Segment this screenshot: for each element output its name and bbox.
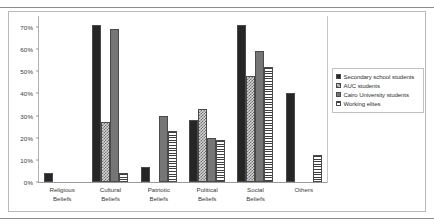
bar[interactable]: [168, 131, 177, 182]
bar-group-bars: [237, 16, 275, 182]
y-tick-mark: [36, 137, 39, 138]
bar-group: [141, 16, 179, 182]
legend-swatch-icon: [336, 74, 341, 79]
x-axis-label: Political Beliefs: [183, 186, 231, 203]
bar-group: [189, 16, 227, 182]
x-axis-line: [38, 182, 328, 183]
legend-swatch-icon: [336, 92, 341, 97]
bar[interactable]: [44, 173, 53, 182]
bar-group: [44, 16, 82, 182]
legend: Secondary school studentsAUC studentsCai…: [332, 68, 424, 113]
legend-item[interactable]: Secondary school students: [336, 72, 420, 81]
legend-rows: Secondary school studentsAUC studentsCai…: [336, 72, 420, 108]
y-axis-line: [38, 16, 39, 183]
bar-group: [237, 16, 275, 182]
y-tick-mark: [36, 159, 39, 160]
bar[interactable]: [189, 120, 198, 182]
bar[interactable]: [119, 173, 128, 182]
y-tick-mark: [36, 71, 39, 72]
figure: 0%10%20%30%40%50%60%70% Religious Belief…: [0, 0, 434, 224]
bar-group-bars: [286, 16, 324, 182]
plot-right-edge: [327, 16, 328, 183]
bar-group-bars: [44, 16, 82, 182]
bar-group: [92, 16, 130, 182]
bar[interactable]: [286, 93, 295, 182]
legend-item[interactable]: AUC students: [336, 81, 420, 90]
x-axis-label: Patriotic Beliefs: [135, 186, 183, 203]
y-tick-mark: [36, 93, 39, 94]
legend-item-label: AUC students: [344, 83, 380, 89]
bar[interactable]: [207, 138, 216, 182]
x-axis-label: Cultural Beliefs: [86, 186, 134, 203]
x-axis-label: Social Beliefs: [231, 186, 279, 203]
bar[interactable]: [198, 109, 207, 182]
bar-group: [286, 16, 324, 182]
legend-item[interactable]: Cairo University students: [336, 90, 420, 99]
bottom-rule: [0, 218, 434, 219]
x-axis-label: Others: [280, 186, 328, 195]
legend-swatch-icon: [336, 83, 341, 88]
bar-group-bars: [92, 16, 130, 182]
bar[interactable]: [255, 51, 264, 182]
x-axis-label: Religious Beliefs: [38, 186, 86, 203]
y-tick-mark: [36, 182, 39, 183]
y-tick-mark: [36, 49, 39, 50]
legend-swatch-icon: [336, 101, 341, 106]
bar[interactable]: [92, 25, 101, 182]
y-tick-mark: [36, 27, 39, 28]
bar[interactable]: [313, 155, 322, 182]
bar-group-bars: [141, 16, 179, 182]
bar[interactable]: [237, 25, 246, 182]
legend-item-label: Working elites: [344, 101, 381, 107]
bar[interactable]: [246, 76, 255, 182]
legend-item-label: Cairo University students: [344, 92, 409, 98]
bar[interactable]: [159, 116, 168, 182]
bar[interactable]: [110, 29, 119, 182]
bar[interactable]: [216, 140, 225, 182]
plot-area: 0%10%20%30%40%50%60%70% Religious Belief…: [38, 16, 328, 183]
bar[interactable]: [264, 67, 273, 182]
legend-item[interactable]: Working elites: [336, 99, 420, 108]
y-tick-mark: [36, 115, 39, 116]
top-rule: [0, 7, 434, 8]
bar-group-bars: [189, 16, 227, 182]
bar[interactable]: [101, 122, 110, 182]
bar[interactable]: [141, 167, 150, 182]
legend-item-label: Secondary school students: [344, 74, 415, 80]
